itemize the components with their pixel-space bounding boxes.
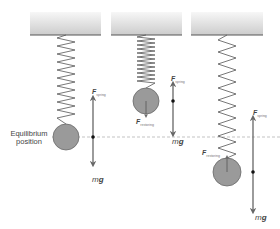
mg-label-1: mg xyxy=(92,175,104,184)
spring-1 xyxy=(57,35,75,124)
f-restoring-label-2: Frestoring xyxy=(136,118,154,127)
force-arrows-2 xyxy=(171,84,175,134)
f-spring-label-2: Fspring xyxy=(171,75,185,84)
force-arrows-3 xyxy=(251,118,255,211)
mg-label-3: mg xyxy=(255,213,267,222)
spring-2 xyxy=(137,35,155,88)
mg-label-2: mg xyxy=(172,137,184,146)
mass-ball-1 xyxy=(53,124,79,150)
spring-diagram: Equilibrium position Fspring Fspring Fsp… xyxy=(0,0,280,229)
f-restoring-label-3: Frestoring xyxy=(202,149,220,158)
ceiling-3 xyxy=(191,12,263,35)
force-arrows-1 xyxy=(91,98,95,164)
equilibrium-label-line2: position xyxy=(16,137,42,146)
ceiling-2 xyxy=(111,12,182,35)
spring-3 xyxy=(218,35,236,158)
f-spring-label-1: Fspring xyxy=(92,88,106,97)
ceiling-1 xyxy=(30,12,101,35)
f-spring-label-3: Fspring xyxy=(253,109,267,118)
